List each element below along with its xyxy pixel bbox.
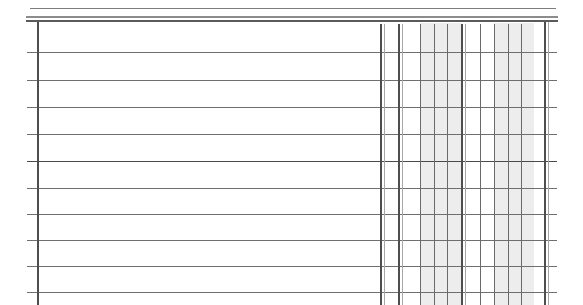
row-rule-5 (27, 161, 557, 162)
column-rule-2b (402, 24, 403, 305)
column-rule-1b (384, 24, 385, 305)
grid-right-border (544, 22, 546, 305)
row-rule-9 (27, 266, 557, 267)
column-shade-band-2 (494, 23, 534, 305)
row-rule-10 (27, 292, 557, 293)
column-rule-9 (508, 24, 509, 305)
column-rule-5 (447, 24, 448, 305)
row-rule-4 (27, 134, 557, 135)
column-rule-1 (380, 24, 382, 305)
column-rule-4 (434, 24, 435, 305)
column-rule-6b (465, 24, 466, 305)
column-rule-7 (480, 24, 481, 305)
column-rule-8 (494, 24, 495, 305)
row-rule-8 (27, 240, 557, 241)
masthead-top-rule (30, 8, 556, 9)
row-rule-3 (27, 107, 557, 108)
row-rule-7 (27, 214, 557, 215)
column-rule-2 (398, 24, 400, 305)
masthead-mid-rule (26, 16, 558, 18)
masthead-bottom-rule (26, 20, 558, 22)
grid-left-border (37, 22, 39, 305)
column-rule-3 (420, 24, 421, 305)
column-rule-10 (521, 24, 522, 305)
grid-right-border-b (548, 22, 549, 305)
row-rule-1 (27, 52, 557, 53)
document-page (0, 0, 583, 305)
row-rule-2 (27, 80, 557, 81)
column-rule-6 (461, 24, 463, 305)
column-shade-band-1 (420, 23, 461, 305)
row-rule-6 (27, 188, 557, 189)
